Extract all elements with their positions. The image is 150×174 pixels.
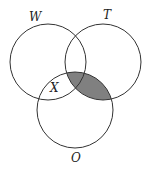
label-t: T bbox=[103, 8, 112, 22]
venn-diagram: W T X O bbox=[0, 0, 150, 174]
venn-svg: W T X O bbox=[0, 0, 150, 174]
label-o: O bbox=[71, 151, 81, 165]
circle-w bbox=[10, 24, 86, 100]
label-w: W bbox=[29, 10, 43, 24]
label-x: X bbox=[49, 81, 59, 95]
